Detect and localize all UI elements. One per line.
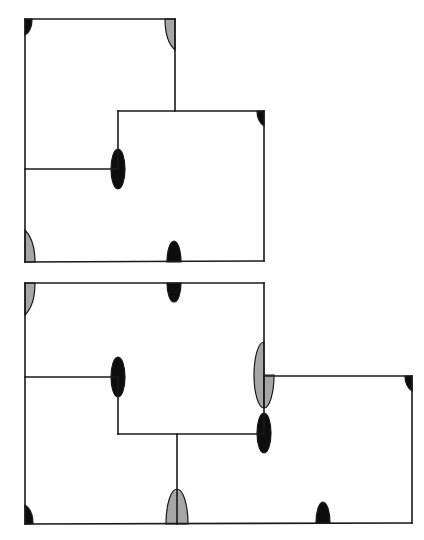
corner-top-right-gray-marker-icon [165, 19, 175, 50]
corner-right-black-marker-icon [405, 376, 412, 391]
diagram-canvas [0, 0, 424, 540]
corner-top-left-black-marker-icon [25, 19, 32, 35]
gray-ellipse-left-half-gray-marker-icon [254, 342, 264, 408]
top-half-ellipse-black-marker-icon [167, 283, 181, 302]
bottom-figure-lines [25, 283, 412, 524]
corner-top-left-gray-marker-icon [25, 283, 35, 315]
wall-line [25, 523, 412, 524]
bottom-half-ellipse-black-marker-icon [167, 241, 181, 262]
corner-right-black-marker-icon [257, 111, 264, 126]
corner-bottom-left-gray-marker-icon [25, 230, 35, 262]
markers-layer [25, 19, 412, 524]
top-figure-markers [25, 19, 264, 262]
wall-line [25, 261, 264, 262]
bottom-black-half-ellipse-black-marker-icon [316, 502, 330, 523]
corner-bottom-left-black-marker-icon [25, 505, 33, 524]
bottom-figure-markers [25, 283, 412, 524]
top-figure-lines [25, 19, 264, 262]
lines-layer [25, 19, 412, 524]
gray-ellipse-right-quarter-gray-marker-icon [264, 375, 274, 408]
